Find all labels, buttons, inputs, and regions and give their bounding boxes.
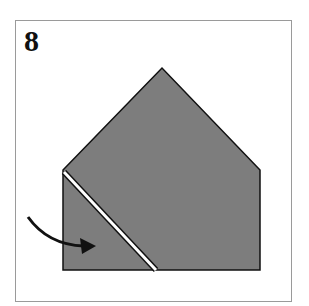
paper-shape (63, 68, 260, 270)
origami-diagram (0, 0, 309, 306)
